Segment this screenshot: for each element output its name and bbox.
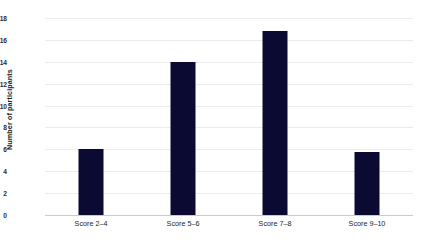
bar-chart: Number of participants 181614121086420 S… [0,0,429,245]
x-axis-tick-labels: Score 2–4Score 5–6Score 7–8Score 9–10 [45,219,413,239]
x-axis-tick-label: Score 5–6 [137,219,229,228]
bar[interactable] [171,62,196,215]
bar[interactable] [79,149,104,215]
gridline [45,215,413,216]
bar-slot [137,18,229,215]
x-axis-tick-label: Score 7–8 [229,219,321,228]
bar[interactable] [263,31,288,215]
y-axis-tick-label: 6 [0,146,7,153]
y-axis-tick-label: 8 [0,124,7,131]
y-axis-tick-label: 10 [0,102,7,109]
y-axis-tick-label: 14 [0,58,7,65]
x-axis-tick-label: Score 9–10 [321,219,413,228]
y-axis-tick-label: 2 [0,190,7,197]
bar[interactable] [355,152,380,215]
bars-layer [45,18,413,215]
x-axis-tick-label: Score 2–4 [45,219,137,228]
bar-slot [321,18,413,215]
y-axis-tick-label: 16 [0,36,7,43]
plot-area [45,18,413,215]
bar-slot [45,18,137,215]
y-axis-tick-label: 18 [0,15,7,22]
bar-slot [229,18,321,215]
y-axis-tick-label: 0 [0,212,7,219]
y-axis-tick-label: 4 [0,168,7,175]
y-axis-tick-label: 12 [0,80,7,87]
